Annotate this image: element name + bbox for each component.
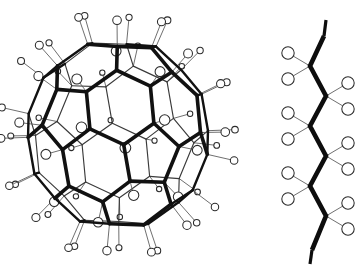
hydrogen-circle xyxy=(35,41,43,49)
chain-hydrogen-circle xyxy=(282,193,294,205)
hydrogen-circle xyxy=(157,18,165,26)
cage-bond xyxy=(119,198,120,222)
cage-bond xyxy=(57,89,87,91)
chain-hydrogen-circle xyxy=(282,133,294,145)
chain-hydrogen-circle xyxy=(342,77,354,89)
hydrogen-circle xyxy=(75,13,83,21)
hydrogen-circle xyxy=(103,246,111,254)
hydrogen-circle xyxy=(217,80,225,88)
hydrogen-circle xyxy=(211,203,218,210)
cage-bond xyxy=(117,47,118,71)
hydrogen-circle xyxy=(221,128,230,137)
cage-bond xyxy=(57,66,58,90)
hydrogen-circle xyxy=(152,138,157,143)
hydrogen-circle xyxy=(156,186,161,191)
hydrogen-circle xyxy=(72,74,82,84)
hydrogen-circle xyxy=(197,47,203,53)
hydrogen-circle xyxy=(230,157,238,165)
cage-bond xyxy=(88,44,118,46)
hydrogen-circle xyxy=(32,213,40,221)
hydrogen-circle xyxy=(113,16,122,25)
hydrogen-circle xyxy=(6,182,13,189)
chain-hydrogen-circle xyxy=(282,47,294,59)
canvas-background xyxy=(0,0,364,272)
hydrogen-circle xyxy=(214,143,220,149)
chain-hydrogen-circle xyxy=(342,163,354,175)
cage-bond xyxy=(117,47,151,48)
chain-hydrogen-circle xyxy=(282,107,294,119)
hydrogen-circle xyxy=(45,212,51,218)
hydrogen-circle xyxy=(147,248,155,256)
molecule-diagram-canvas xyxy=(0,0,364,272)
chain-tail-bottom xyxy=(310,250,312,264)
chain-hydrogen-circle xyxy=(342,197,354,209)
hydrogen-circle xyxy=(73,194,78,199)
chain-hydrogen-circle xyxy=(342,103,354,115)
hydrogen-circle xyxy=(36,115,41,120)
hydrogen-circle xyxy=(192,145,202,155)
cage-bond xyxy=(130,181,164,182)
hydrogen-circle xyxy=(155,67,165,77)
chain-hydrogen-circle xyxy=(282,73,294,85)
hydrogen-circle xyxy=(126,14,132,20)
hydrogen-circle xyxy=(129,190,139,200)
hydrogen-circle xyxy=(46,40,52,46)
hydrogen-circle xyxy=(0,134,5,142)
figure-root xyxy=(0,0,364,272)
hydrogen-circle xyxy=(65,244,73,252)
hydrogen-circle xyxy=(193,220,199,226)
hydrogen-circle xyxy=(0,104,5,111)
chain-hydrogen-circle xyxy=(282,167,294,179)
cage-bond xyxy=(28,114,29,138)
hydrogen-circle xyxy=(159,115,169,125)
chain-hydrogen-circle xyxy=(342,223,354,235)
hydrogen-circle xyxy=(18,57,25,64)
hydrogen-circle xyxy=(41,149,51,159)
hydrogen-circle xyxy=(15,118,24,127)
hydrogen-circle xyxy=(116,245,122,251)
chain-tail-top xyxy=(324,20,326,36)
hydrogen-circle xyxy=(100,70,105,75)
hydrogen-circle xyxy=(117,214,122,219)
chain-hydrogen-circle xyxy=(342,137,354,149)
hydrogen-circle xyxy=(232,126,239,133)
hydrogen-circle xyxy=(187,111,192,116)
cage-bond xyxy=(110,224,144,225)
hydrogen-circle xyxy=(183,221,191,229)
hydrogen-circle xyxy=(184,49,193,58)
